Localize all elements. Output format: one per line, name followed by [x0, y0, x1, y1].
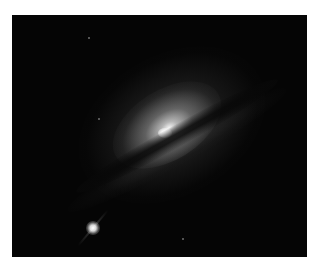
faint-star: [98, 118, 100, 120]
faint-star: [182, 238, 184, 240]
galaxy-photo: [12, 15, 307, 257]
faint-star: [88, 37, 90, 39]
bright-point-source: [86, 221, 100, 235]
